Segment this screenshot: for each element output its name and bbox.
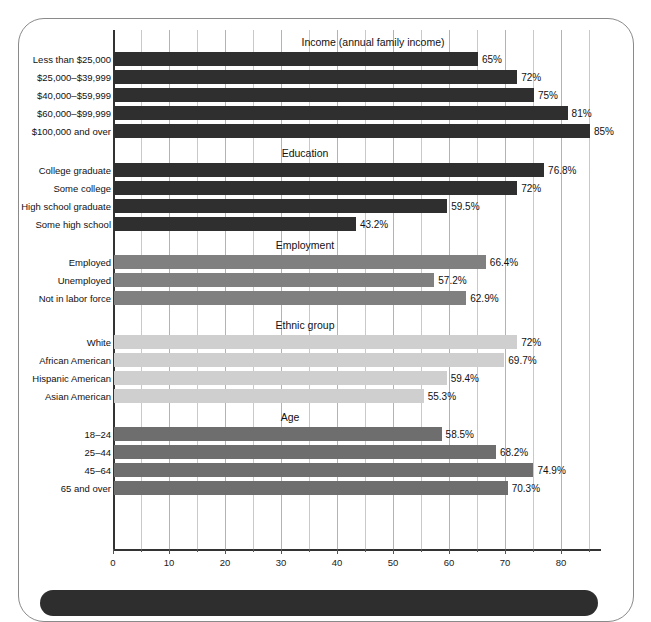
bar-category-label: $100,000 and over [0,126,111,137]
bar-category-label: Employed [0,257,111,268]
bar [114,335,517,349]
x-tick-mark [449,549,450,554]
bar-category-label: Not in labor force [0,293,111,304]
bar [114,199,447,213]
bar-value-label: 85% [594,126,614,137]
x-minor-tick-mark [477,549,478,552]
bar [114,70,517,84]
bottom-band [40,590,598,616]
x-minor-tick-mark [141,549,142,552]
bar-category-label: College graduate [0,165,111,176]
bar-value-label: 72% [521,72,541,83]
bar-value-label: 70.3% [512,483,540,494]
bar-category-label: $25,000–$39,999 [0,72,111,83]
bar-value-label: 75% [538,90,558,101]
bar [114,481,508,495]
bar-category-label: $60,000–$99,999 [0,108,111,119]
bar [114,463,533,477]
x-tick-mark [337,549,338,554]
x-tick-mark [225,549,226,554]
bar-category-label: African American [0,355,111,366]
x-axis-line [113,549,601,551]
x-tick-mark [169,549,170,554]
bar [114,445,496,459]
bar [114,106,568,120]
bar-category-label: 45–64 [0,465,111,476]
bar-value-label: 57.2% [438,275,466,286]
bar-category-label: Hispanic American [0,373,111,384]
bar-value-label: 55.3% [428,391,456,402]
x-tick-label: 10 [164,557,175,568]
bar-category-label: White [0,337,111,348]
x-tick-label: 40 [332,557,343,568]
bar-category-label: Asian American [0,391,111,402]
section-title-ethnic: Ethnic group [276,319,335,331]
x-minor-tick-mark [253,549,254,552]
bar [114,255,486,269]
bar [114,217,356,231]
x-tick-label: 70 [500,557,511,568]
bar-category-label: 25–44 [0,447,111,458]
bar [114,52,478,66]
section-title-education: Education [282,147,329,159]
bar [114,353,504,367]
bar-value-label: 59.4% [451,373,479,384]
bar-value-label: 74.9% [537,465,565,476]
x-tick-label: 0 [110,557,115,568]
bar-value-label: 68.2% [500,447,528,458]
x-tick-label: 80 [556,557,567,568]
x-tick-label: 50 [388,557,399,568]
bar [114,273,434,287]
bar-value-label: 76.8% [548,165,576,176]
section-title-income: Income (annual family income) [302,36,445,48]
x-tick-mark [561,549,562,554]
x-tick-mark [113,549,114,554]
bar [114,163,544,177]
bar [114,389,424,403]
x-tick-mark [505,549,506,554]
bar [114,88,534,102]
x-tick-mark [281,549,282,554]
bar-value-label: 58.5% [446,429,474,440]
bar-category-label: 65 and over [0,483,111,494]
x-minor-tick-mark [533,549,534,552]
bar-value-label: 72% [521,337,541,348]
bar-value-label: 66.4% [490,257,518,268]
x-tick-label: 30 [276,557,287,568]
bar [114,181,517,195]
bar [114,124,590,138]
bar-category-label: 18–24 [0,429,111,440]
bar-value-label: 72% [521,183,541,194]
bar-category-label: Some high school [0,219,111,230]
x-minor-tick-mark [589,549,590,552]
bar-category-label: $40,000–$59,999 [0,90,111,101]
x-tick-label: 20 [220,557,231,568]
bar-value-label: 59.5% [451,201,479,212]
x-minor-tick-mark [365,549,366,552]
x-tick-label: 60 [444,557,455,568]
bar [114,291,466,305]
bar-value-label: 62.9% [470,293,498,304]
bar-value-label: 65% [482,54,502,65]
bar-category-label: Less than $25,000 [0,54,111,65]
bar-value-label: 81% [572,108,592,119]
x-minor-tick-mark [197,549,198,552]
x-minor-tick-mark [309,549,310,552]
bar-category-label: High school graduate [0,201,111,212]
x-minor-tick-mark [421,549,422,552]
section-title-employment: Employment [276,239,334,251]
bar-category-label: Unemployed [0,275,111,286]
bar-category-label: Some college [0,183,111,194]
bar-value-label: 43.2% [360,219,388,230]
section-title-age: Age [281,411,300,423]
x-tick-mark [393,549,394,554]
bar-value-label: 69.7% [508,355,536,366]
bar [114,427,442,441]
bar [114,371,447,385]
